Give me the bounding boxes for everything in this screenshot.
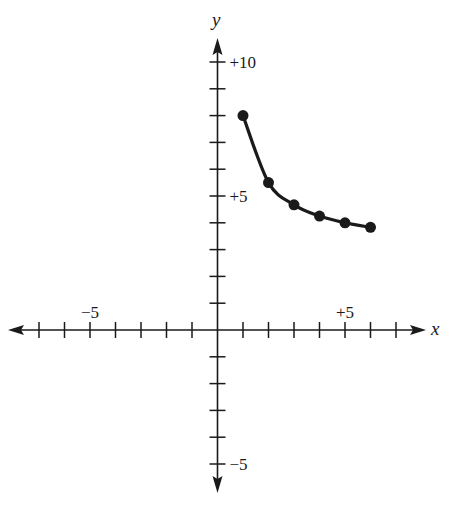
- data-points: [238, 110, 377, 233]
- data-curve: [243, 116, 371, 228]
- y-tick-label: −5: [230, 455, 248, 474]
- data-point: [314, 211, 325, 222]
- coordinate-plane: −5+5+10+5−5 x y: [0, 0, 452, 518]
- y-tick-label: +10: [230, 53, 257, 72]
- data-point: [238, 110, 249, 121]
- data-point: [365, 222, 376, 233]
- data-point: [340, 217, 351, 228]
- data-point: [289, 199, 300, 210]
- y-tick-label: +5: [230, 187, 248, 206]
- x-tick-label: −5: [81, 303, 99, 322]
- axes: [8, 38, 426, 493]
- data-point: [263, 177, 274, 188]
- x-axis-label: x: [430, 318, 440, 339]
- y-axis-label: y: [210, 9, 221, 30]
- x-tick-label: +5: [336, 303, 354, 322]
